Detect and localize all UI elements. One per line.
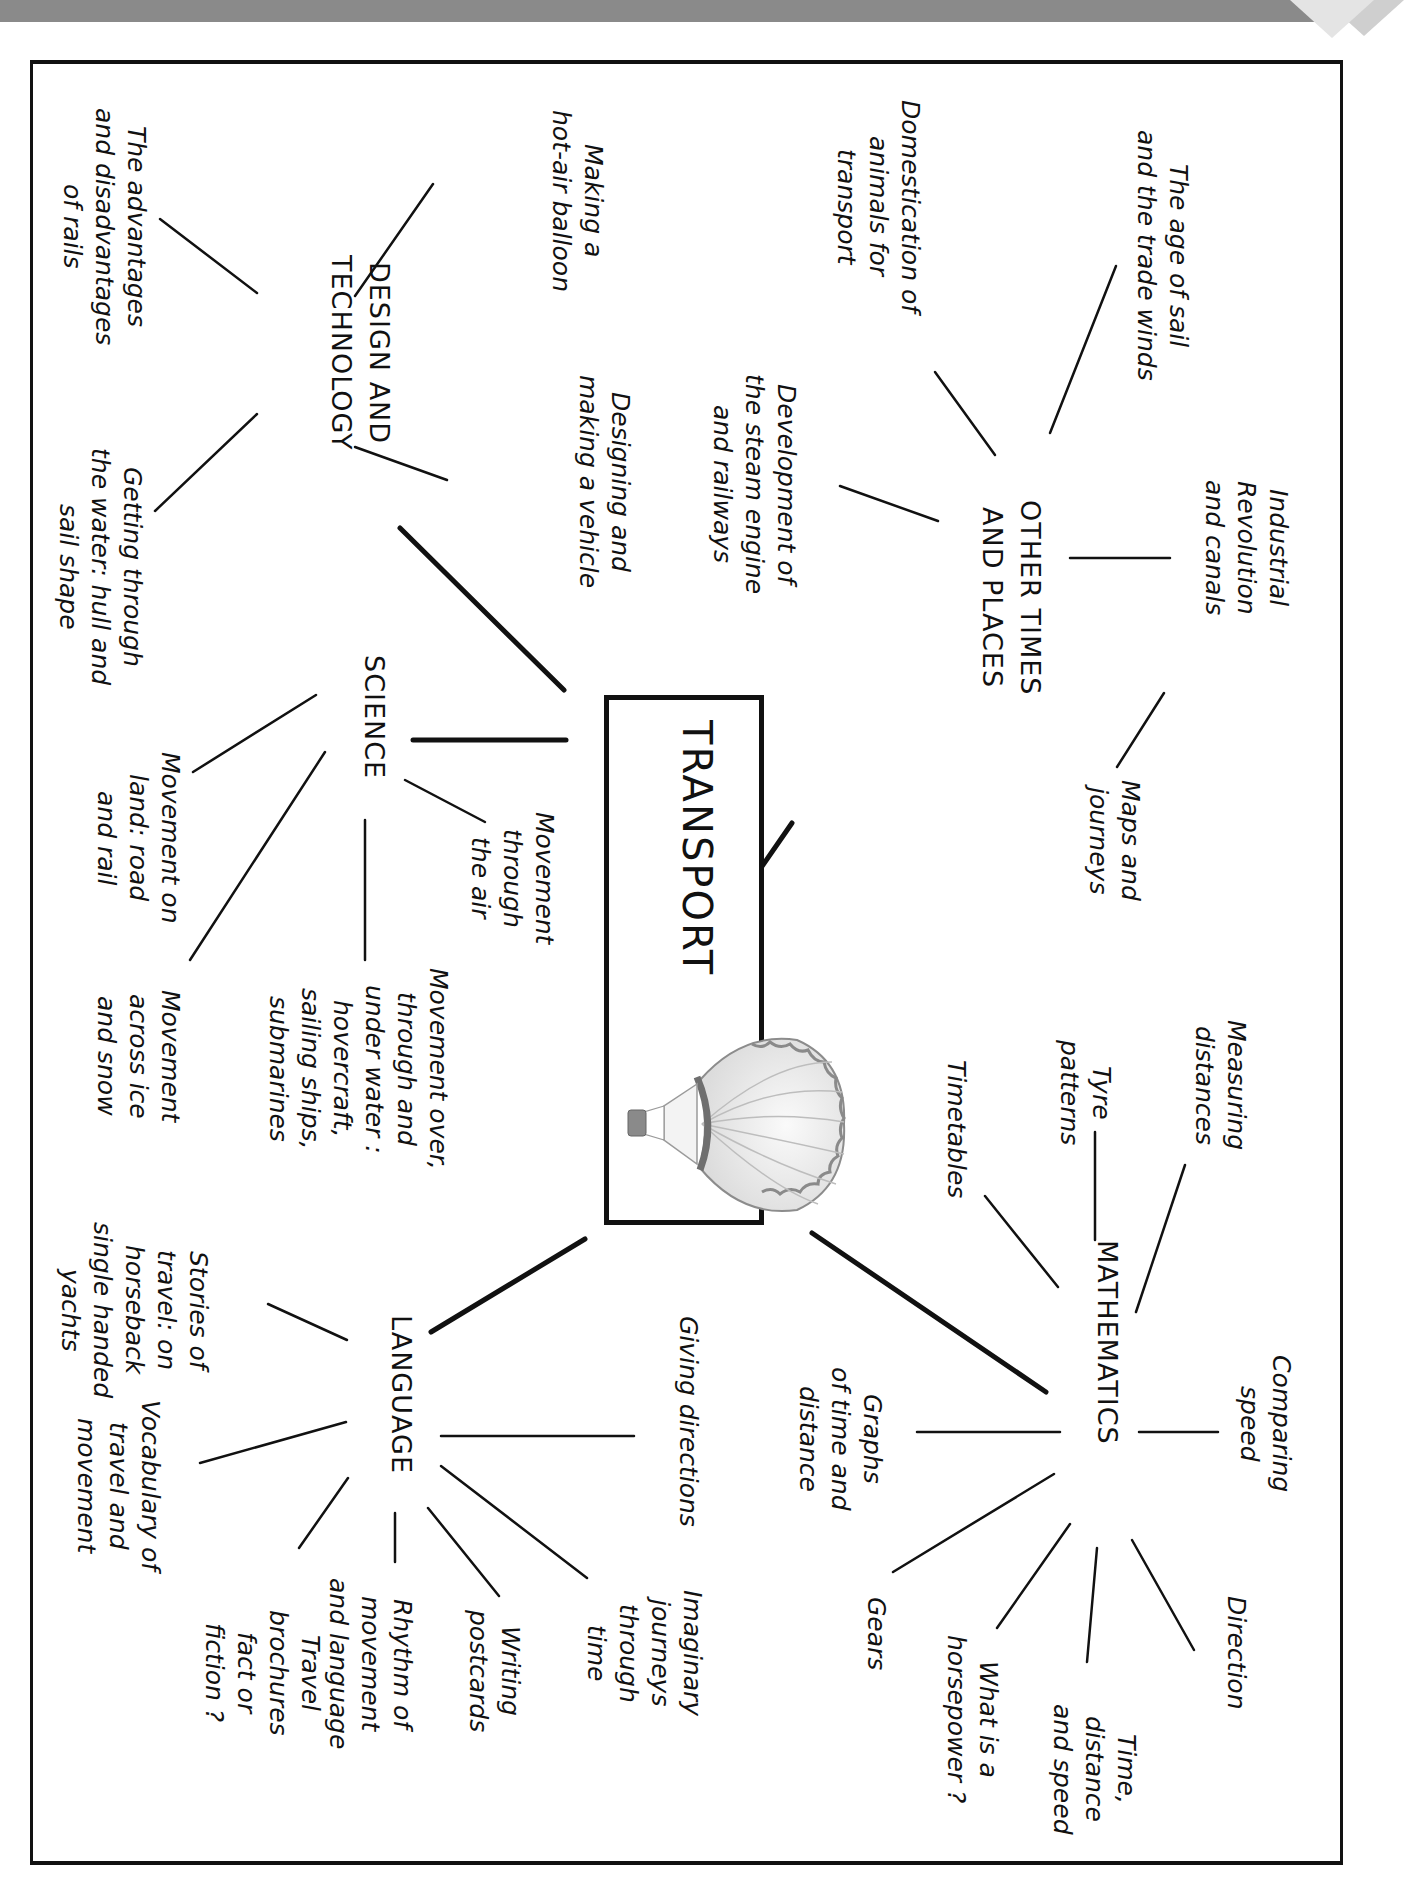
leaf-graphs-time-distance: Graphs of time and distance bbox=[792, 1367, 888, 1511]
center-topic-title: TRANSPORT bbox=[672, 720, 722, 976]
leaf-direction: Direction bbox=[1220, 1596, 1252, 1710]
leaf-comparing-speed: Comparing speed bbox=[1233, 1355, 1297, 1492]
leaf-timetables: Timetables bbox=[940, 1060, 972, 1198]
leaf-domestication-of-animals: Domestication of animals for transport bbox=[830, 100, 926, 313]
leaf-maps-and-journeys: Maps and journeys bbox=[1082, 780, 1146, 901]
hub-other-times-and-places: OTHER TIMES AND PLACES bbox=[973, 500, 1049, 695]
leaf-industrial-revolution: Industrial Revolution and canals bbox=[1198, 480, 1294, 615]
leaf-movement-ice-snow: Movement across ice and snow bbox=[90, 990, 186, 1122]
leaf-advantages-of-rails: The advantages and disadvantages of rail… bbox=[56, 108, 152, 345]
leaf-measuring-distances: Measuring distances bbox=[1188, 1020, 1252, 1150]
leaf-gears: Gears bbox=[860, 1597, 892, 1670]
leaf-rhythm-of-movement: Rhythm of movement and language bbox=[322, 1578, 418, 1749]
hub-language: LANGUAGE bbox=[382, 1315, 420, 1474]
hot-air-balloon-icon bbox=[622, 1022, 852, 1227]
leaf-vocabulary-travel: Vocabulary of travel and movement bbox=[70, 1400, 166, 1571]
leaf-designing-vehicle: Designing and making a vehicle bbox=[572, 375, 636, 588]
leaf-movement-through-air: Movement through the air bbox=[464, 812, 560, 944]
leaf-time-distance-speed: Time, distance and speed bbox=[1046, 1704, 1142, 1835]
hub-mathematics: MATHEMATICS bbox=[1088, 1240, 1126, 1445]
leaf-tyre-patterns: Tyre patterns bbox=[1053, 1040, 1117, 1145]
leaf-movement-land: Movement on land: road and rail bbox=[90, 752, 186, 924]
leaf-giving-directions: Giving directions bbox=[672, 1316, 704, 1527]
leaf-steam-engine-railways: Development of the steam engine and rail… bbox=[706, 374, 802, 594]
leaf-making-hot-air-balloon: Making a hot-air balloon bbox=[545, 110, 609, 292]
leaf-what-is-horsepower: What is a horsepower ? bbox=[940, 1635, 1004, 1803]
leaf-travel-brochures: Travel brochures fact or fiction ? bbox=[198, 1610, 326, 1736]
leaf-age-of-sail: The age of sail and the trade winds bbox=[1130, 130, 1194, 381]
leaf-movement-water: Movement over, through and under water :… bbox=[262, 968, 454, 1170]
hub-design-and-technology: DESIGN AND TECHNOLOGY bbox=[322, 255, 398, 451]
leaf-stories-of-travel: Stories of travel: on horseback single h… bbox=[54, 1222, 214, 1398]
leaf-getting-through-water: Getting through the water: hull and sail… bbox=[52, 448, 148, 685]
leaf-imaginary-journeys: Imaginary journeys through time bbox=[580, 1590, 708, 1716]
leaf-writing-postcards: Writing postcards bbox=[462, 1610, 526, 1732]
hub-science: SCIENCE bbox=[355, 655, 393, 779]
